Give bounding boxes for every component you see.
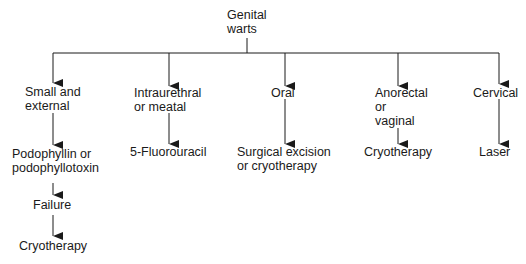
condition-line: Small and <box>25 85 81 99</box>
condition-line: or <box>375 100 428 114</box>
treatment-cryotherapy-1: Cryotherapy <box>19 239 87 253</box>
condition-line: Oral <box>271 86 295 100</box>
condition-line: external <box>25 99 81 113</box>
treatment-line: Surgical excision <box>237 145 331 159</box>
outcome-failure: Failure <box>33 198 71 212</box>
condition-line: Intraurethral <box>134 86 201 100</box>
outcome-line: Failure <box>33 198 71 212</box>
root-line-1: Genital <box>227 8 267 22</box>
condition-line: or meatal <box>134 100 201 114</box>
treatment-podophyllin: Podophyllin or podophyllotoxin <box>12 147 99 175</box>
treatment-line: 5-Fluorouracil <box>130 145 206 159</box>
treatment-line: podophyllotoxin <box>12 161 99 175</box>
treatment-cryotherapy-4: Cryotherapy <box>364 145 432 159</box>
condition-intraurethral: Intraurethral or meatal <box>134 86 201 114</box>
condition-small-external: Small and external <box>25 85 81 113</box>
treatment-fluorouracil: 5-Fluorouracil <box>130 145 206 159</box>
condition-oral: Oral <box>271 86 295 100</box>
condition-line: vaginal <box>375 114 428 128</box>
treatment-surgical-excision: Surgical excision or cryotherapy <box>237 145 331 173</box>
condition-line: Cervical <box>473 86 518 100</box>
treatment-laser: Laser <box>479 145 510 159</box>
treatment-line: Cryotherapy <box>19 239 87 253</box>
treatment-line: Podophyllin or <box>12 147 99 161</box>
treatment-line: Cryotherapy <box>364 145 432 159</box>
root-node-genital-warts: Genital warts <box>227 8 267 36</box>
condition-cervical: Cervical <box>473 86 518 100</box>
condition-line: Anorectal <box>375 86 428 100</box>
flowchart-connectors <box>0 0 526 264</box>
treatment-line: or cryotherapy <box>237 159 331 173</box>
condition-anorectal-vaginal: Anorectal or vaginal <box>375 86 428 128</box>
root-line-2: warts <box>227 22 267 36</box>
treatment-line: Laser <box>479 145 510 159</box>
